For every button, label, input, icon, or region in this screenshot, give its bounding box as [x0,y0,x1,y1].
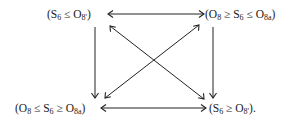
edge-top-left-to-bottom-left [92,27,99,98]
edge-top-left-to-bottom-right [110,26,204,99]
arrows-layer [0,0,303,124]
edge-top-right-to-bottom-left [105,25,199,98]
edge-top-left-to-top-right [108,11,204,18]
edge-top-right-to-bottom-right [210,27,217,98]
edge-bottom-left-to-bottom-right [101,105,206,112]
